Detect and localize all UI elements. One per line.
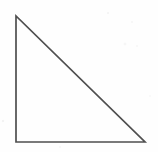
triangle-shape <box>16 16 145 142</box>
figure-canvas <box>0 0 158 152</box>
right-triangle-drawing <box>0 0 158 152</box>
